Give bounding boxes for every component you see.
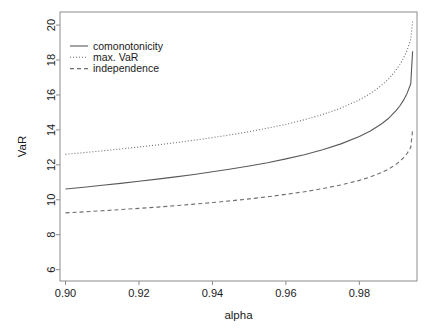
x-axis-title: alpha <box>224 309 253 321</box>
legend-label: max. VaR <box>93 51 139 63</box>
var-line-chart: 0.900.920.940.960.98 68101214161820 alph… <box>0 0 434 332</box>
chart-container: 0.900.920.940.960.98 68101214161820 alph… <box>0 0 434 332</box>
x-tick-label: 0.90 <box>55 287 76 299</box>
legend-label: comonotonicity <box>93 40 164 52</box>
x-tick-label: 0.96 <box>275 287 296 299</box>
y-axis-title: VaR <box>16 136 28 158</box>
y-tick-label: 10 <box>45 194 57 206</box>
x-tick-label: 0.94 <box>202 287 223 299</box>
x-tick-label: 0.98 <box>349 287 370 299</box>
y-tick-label: 20 <box>45 19 57 31</box>
legend-label: independence <box>93 62 159 74</box>
y-tick-label: 12 <box>45 159 57 171</box>
y-tick-label: 8 <box>45 232 57 238</box>
y-tick-label: 6 <box>45 267 57 273</box>
y-tick-label: 16 <box>45 89 57 101</box>
y-tick-label: 14 <box>45 124 57 136</box>
x-tick-label: 0.92 <box>128 287 149 299</box>
y-tick-label: 18 <box>45 54 57 66</box>
